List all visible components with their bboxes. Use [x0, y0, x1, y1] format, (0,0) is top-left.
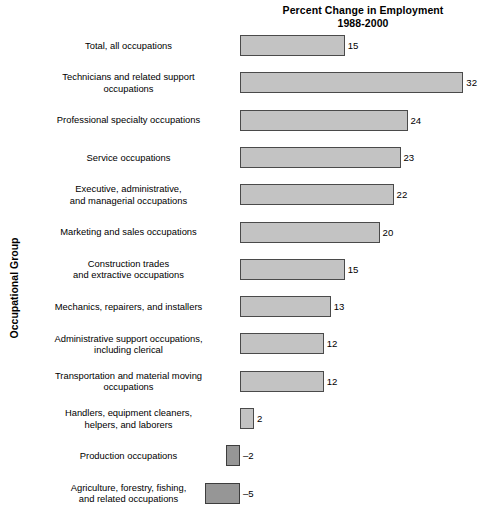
- category-label: Service occupations: [21, 152, 236, 163]
- category-label: Mechanics, repairers, and installers: [21, 301, 236, 312]
- category-label: Agriculture, forestry, fishing,and relat…: [21, 482, 236, 505]
- category-label: Administrative support occupations,inclu…: [21, 333, 236, 356]
- plot-area: Total, all occupations15Technicians and …: [0, 0, 498, 532]
- category-label-line2: and extractive occupations: [21, 269, 236, 280]
- bar: [240, 222, 380, 243]
- category-label: Marketing and sales occupations: [21, 226, 236, 237]
- bar-value-label: 13: [334, 296, 345, 317]
- category-label-line1: Transportation and material moving: [55, 370, 202, 381]
- category-label-line1: Technicians and related support: [62, 71, 194, 82]
- bar: [240, 72, 463, 93]
- bar-value-label: 24: [411, 110, 422, 131]
- category-label: Handlers, equipment cleaners,helpers, an…: [21, 407, 236, 430]
- bar: [240, 147, 401, 168]
- bar-value-label: 12: [327, 333, 338, 354]
- category-label-line2: and related occupations: [21, 493, 236, 504]
- bar: [205, 483, 240, 504]
- category-label-line1: Marketing and sales occupations: [60, 226, 197, 237]
- bar: [240, 110, 408, 131]
- bar-chart: Percent Change in Employment 1988-2000 O…: [0, 0, 498, 532]
- category-label-line1: Administrative support occupations,: [55, 333, 203, 344]
- category-label-line1: Construction trades: [88, 258, 169, 269]
- category-label-line2: and managerial occupations: [21, 195, 236, 206]
- bar: [240, 408, 254, 429]
- bar-value-label: 20: [383, 222, 394, 243]
- category-label-line2: occupations: [21, 83, 236, 94]
- bar: [240, 184, 394, 205]
- category-label-line1: Professional specialty occupations: [57, 114, 200, 125]
- bar-value-label: 12: [327, 371, 338, 392]
- category-label-line1: Service occupations: [87, 152, 171, 163]
- bar-value-label: 15: [348, 35, 359, 56]
- category-label-line1: Production occupations: [80, 450, 177, 461]
- category-label: Total, all occupations: [21, 40, 236, 51]
- bar-value-label: 23: [404, 147, 415, 168]
- bar-value-label: 22: [397, 184, 408, 205]
- category-label-line2: occupations: [21, 381, 236, 392]
- category-label: Executive, administrative,and managerial…: [21, 183, 236, 206]
- category-label-line1: Executive, administrative,: [75, 183, 181, 194]
- category-label-line2: including clerical: [21, 344, 236, 355]
- bar: [240, 333, 324, 354]
- category-label: Production occupations: [21, 450, 236, 461]
- category-label: Construction tradesand extractive occupa…: [21, 258, 236, 281]
- bar: [240, 371, 324, 392]
- bar-value-label: 15: [348, 259, 359, 280]
- bar-value-label: 2: [257, 408, 262, 429]
- bar-value-label: –2: [243, 445, 254, 466]
- category-label: Professional specialty occupations: [21, 114, 236, 125]
- category-label: Transportation and material movingoccupa…: [21, 370, 236, 393]
- category-label-line1: Mechanics, repairers, and installers: [55, 301, 202, 312]
- category-label-line1: Handlers, equipment cleaners,: [65, 407, 192, 418]
- bar: [240, 296, 331, 317]
- category-label-line1: Total, all occupations: [85, 40, 172, 51]
- bar-value-label: –5: [243, 483, 254, 504]
- category-label: Technicians and related supportoccupatio…: [21, 71, 236, 94]
- bar: [240, 259, 345, 280]
- bar-value-label: 32: [466, 72, 477, 93]
- category-label-line1: Agriculture, forestry, fishing,: [71, 482, 187, 493]
- bar: [240, 35, 345, 56]
- bar: [226, 445, 240, 466]
- category-label-line2: helpers, and laborers: [21, 419, 236, 430]
